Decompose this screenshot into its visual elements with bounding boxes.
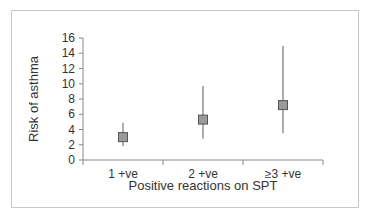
data-points bbox=[119, 46, 288, 147]
y-tick-label: 4 bbox=[68, 123, 75, 137]
y-tick-label: 0 bbox=[68, 153, 75, 167]
data-point bbox=[279, 46, 288, 134]
y-tick-label: 16 bbox=[62, 31, 76, 45]
square-marker-icon bbox=[279, 101, 288, 110]
y-tick-label: 12 bbox=[62, 62, 76, 76]
x-axis-title: Positive reactions on SPT bbox=[129, 178, 278, 193]
y-tick-label: 8 bbox=[68, 92, 75, 106]
data-point bbox=[199, 86, 208, 139]
y-axis: 0246810121416 bbox=[62, 31, 83, 167]
asthma-risk-chart: 0246810121416 1 +ve2 +ve≥3 +ve Risk of a… bbox=[0, 0, 370, 216]
y-tick-label: 10 bbox=[62, 77, 76, 91]
y-tick-label: 2 bbox=[68, 138, 75, 152]
square-marker-icon bbox=[199, 115, 208, 124]
y-tick-label: 6 bbox=[68, 107, 75, 121]
y-tick-label: 14 bbox=[62, 46, 76, 60]
data-point bbox=[119, 123, 128, 147]
square-marker-icon bbox=[119, 133, 128, 142]
y-axis-title: Risk of asthma bbox=[26, 55, 41, 142]
